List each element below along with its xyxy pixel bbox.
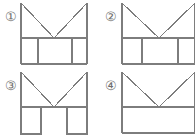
figure-drawing-4 [121,71,195,137]
v-notch [21,72,87,107]
figure-cell-2: ② [97,0,195,70]
v-notch [122,3,195,38]
figure-label-2: ② [102,8,120,26]
v-notch [21,3,87,38]
figure-label-3: ③ [2,77,20,95]
figure-drawing-3 [20,71,90,137]
v-notch [122,72,195,107]
figure-cell-3: ③ [0,69,98,139]
figure-sheet: ① ② ③ [0,0,195,140]
figure-label-4: ④ [102,77,120,95]
figure-cell-4: ④ [97,69,195,139]
figure-drawing-2 [121,2,195,66]
figure-cell-1: ① [0,0,98,70]
figure-drawing-1 [20,2,90,66]
leg-left [21,107,41,134]
figure-label-1: ① [2,8,20,26]
leg-right [67,107,87,134]
